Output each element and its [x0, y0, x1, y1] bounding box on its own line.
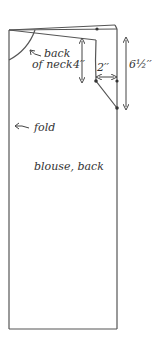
neck-pointer-arrow-icon	[30, 50, 41, 56]
neck-curve	[9, 30, 35, 60]
piece-label: blouse, back	[34, 160, 104, 173]
dimension-label-2in: 2′′	[96, 61, 109, 74]
fold-label: fold	[33, 121, 55, 134]
neck-label-line2: of neck	[32, 58, 73, 71]
dimension-label-4in: 4′′	[72, 58, 85, 71]
fold-pointer-arrow-icon	[15, 123, 29, 129]
dimension-label-6-5in: 6½′′	[129, 58, 152, 71]
blouse-back-pattern: back of neck 4′′ 2′′ 6½′′ fold blouse, b…	[0, 0, 154, 351]
